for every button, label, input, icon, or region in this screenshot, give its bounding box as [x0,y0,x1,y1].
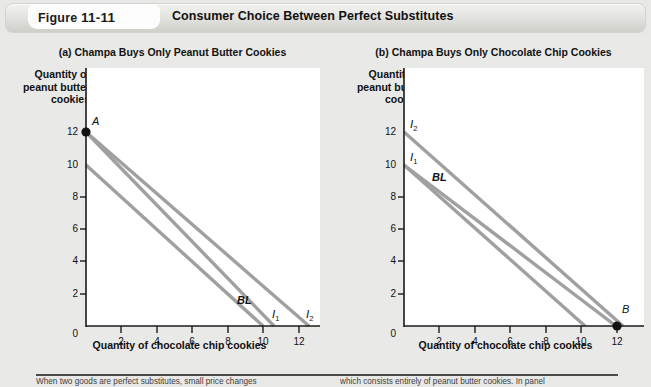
panel-b-x-ticks [439,326,617,333]
panel-b-plot [326,36,651,372]
panel-a: (a) Champa Buys Only Peanut Butter Cooki… [0,36,325,372]
figure-number: 11-11 [81,10,115,25]
figure-title: Consumer Choice Between Perfect Substitu… [172,9,453,23]
panel-b-label-i1-sub: 1 [413,157,417,166]
panel-b-x-tick-8: 8 [538,336,554,347]
figure-body: (a) Champa Buys Only Peanut Butter Cooki… [0,36,651,372]
panel-b-label-i2-sub: 2 [413,124,417,133]
panel-b-label-i2: I2 [410,118,417,133]
panel-a-point-a-label: A [92,115,99,127]
panel-a-label-i2: I2 [306,308,313,323]
panel-a-label-i1: I1 [272,308,279,323]
panel-a-x-tick-12: 12 [290,336,308,347]
panel-a-y-tick-8: 8 [58,191,78,202]
panel-a-label-i1-sub: 1 [275,314,279,323]
panel-b-y-tick-6: 6 [376,223,396,234]
panel-b-x-tick-12: 12 [608,336,626,347]
panel-a-y-tick-4: 4 [58,255,78,266]
panel-a-label-i2-sub: 2 [309,314,313,323]
panel-b-x-tick-4: 4 [467,336,483,347]
panel-b-label-i1: I1 [410,151,417,166]
panel-b-label-bl: BL [432,171,447,183]
panel-a-x-ticks [121,326,299,333]
panel-a-y-tick-10: 10 [52,159,78,170]
caption-right-column: which consists entirely of peanut butter… [340,377,630,387]
panel-b-x-tick-10: 10 [572,336,590,347]
panel-b-point-b-marker [612,321,621,330]
panel-a-point-a-marker [81,127,90,136]
panel-a-y-tick-0: 0 [58,328,78,339]
panel-b: (b) Champa Buys Only Chocolate Chip Cook… [326,36,651,372]
panel-b-y-tick-0: 0 [376,328,396,339]
caption-rule [36,374,618,376]
figure-label: Figure 11-11 [38,10,115,25]
panel-b-y-tick-4: 4 [376,255,396,266]
panel-a-y-tick-2: 2 [58,288,78,299]
panel-a-x-tick-6: 6 [184,336,200,347]
panel-a-x-tick-2: 2 [113,336,129,347]
panel-b-y-tick-10: 10 [370,159,396,170]
panel-a-label-bl: BL [237,294,252,306]
panel-b-y-tick-12: 12 [370,126,396,137]
panel-b-y-ticks [398,197,404,294]
panel-a-x-tick-4: 4 [149,336,165,347]
panel-a-y-tick-12: 12 [52,126,78,137]
figure-word: Figure [38,11,77,25]
panel-b-x-tick-6: 6 [502,336,518,347]
panel-b-y-tick-8: 8 [376,191,396,202]
panel-b-y-tick-2: 2 [376,288,396,299]
panel-b-x-tick-2: 2 [431,336,447,347]
panel-a-x-tick-8: 8 [220,336,236,347]
panel-a-y-tick-6: 6 [58,223,78,234]
caption-left-column: When two goods are perfect substitutes, … [36,377,311,387]
panel-b-point-b-label: B [622,303,629,315]
panel-a-x-tick-10: 10 [254,336,272,347]
panel-a-y-ticks [80,197,86,294]
